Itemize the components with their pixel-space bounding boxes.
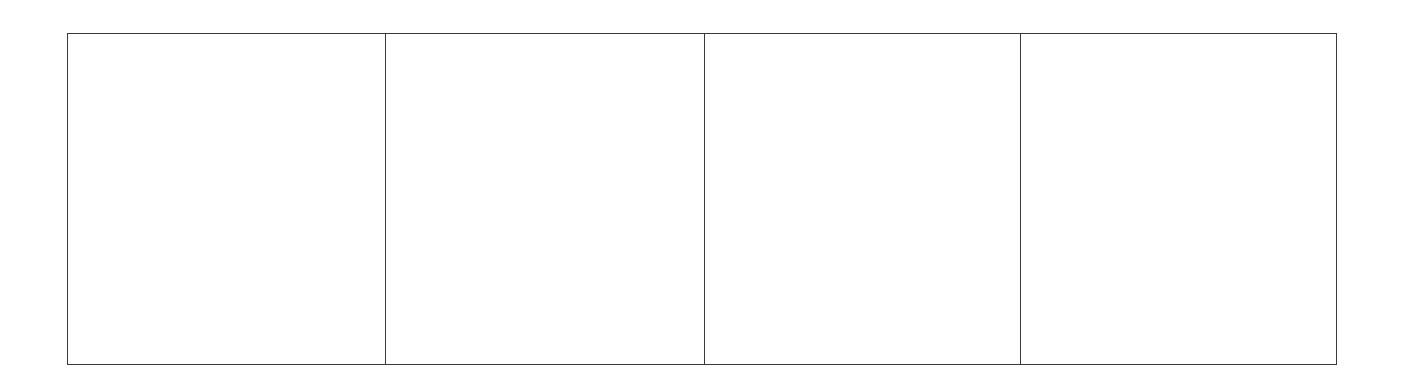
panel-3	[705, 34, 1021, 364]
panel-4	[1021, 34, 1336, 364]
panel-2	[386, 34, 705, 364]
panel-1	[68, 34, 386, 364]
canvas	[0, 0, 1405, 381]
panel-strip	[67, 33, 1337, 365]
